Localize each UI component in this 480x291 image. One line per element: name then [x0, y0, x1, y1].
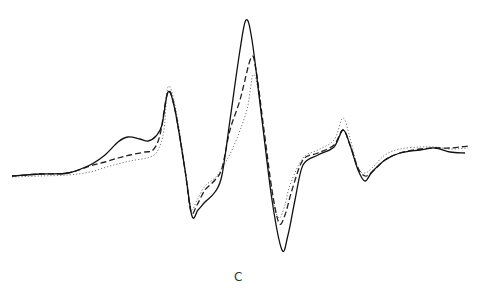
- spectrum-plot: [0, 0, 480, 291]
- panel-label: C: [234, 270, 242, 284]
- dashed-trace: [12, 56, 468, 224]
- solid-trace: [12, 20, 465, 252]
- dotted-trace: [12, 74, 468, 218]
